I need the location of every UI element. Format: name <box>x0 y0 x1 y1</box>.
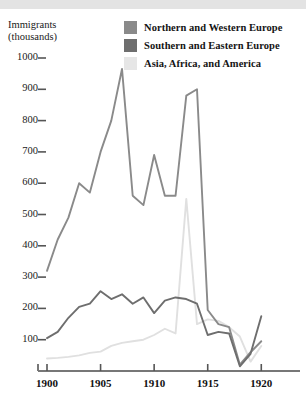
x-axis-tick-label: 1900 <box>24 377 70 389</box>
y-axis-tick-label: 900 <box>4 82 38 93</box>
x-axis-tick-label: 1905 <box>78 377 124 389</box>
series-line-asia-africa-and-america <box>47 199 261 362</box>
x-axis-tick-label: 1910 <box>131 377 177 389</box>
y-axis-tick-label: 1000 <box>4 51 38 62</box>
y-axis-tick-label: 500 <box>4 208 38 219</box>
y-axis-tick-label: 400 <box>4 239 38 250</box>
plot-area: 1002003004005006007008009001000190019051… <box>0 0 306 407</box>
y-axis-tick-label: 200 <box>4 301 38 312</box>
y-axis-tick-label: 800 <box>4 114 38 125</box>
chart-canvas <box>0 0 306 407</box>
series-line-northern-and-western-europe <box>47 69 261 365</box>
x-axis-tick-label: 1920 <box>238 377 284 389</box>
y-axis-tick-label: 600 <box>4 176 38 187</box>
x-axis-tick-label: 1915 <box>185 377 231 389</box>
y-axis-tick-label: 300 <box>4 270 38 281</box>
chart-figure: Immigrants (thousands) Northern and West… <box>0 0 306 407</box>
figure-caption <box>0 400 306 407</box>
y-axis-tick-label: 100 <box>4 333 38 344</box>
y-axis-tick-label: 700 <box>4 145 38 156</box>
